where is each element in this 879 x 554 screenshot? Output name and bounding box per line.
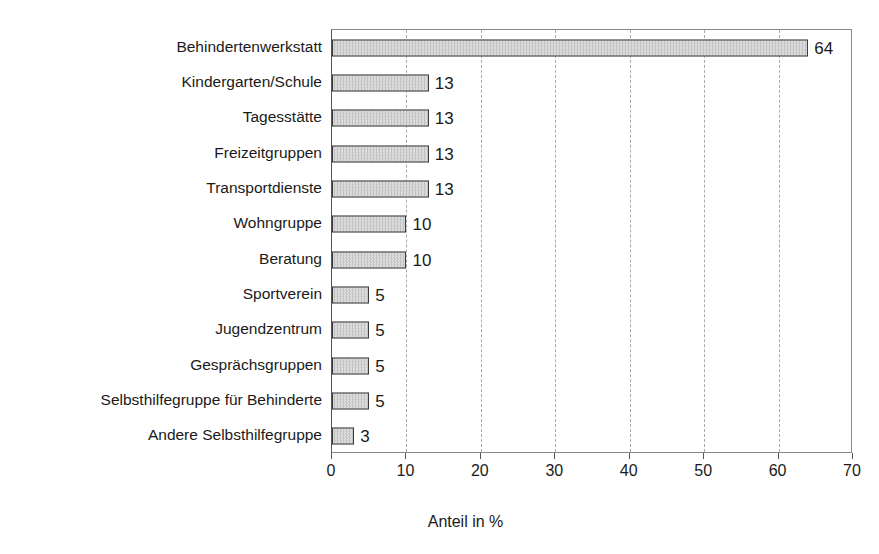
bar-value-label: 3: [360, 428, 369, 445]
bar-value-label: 13: [435, 74, 454, 91]
category-label: Selbsthilfegruppe für Behinderte: [0, 392, 322, 408]
chart-row: 13: [332, 171, 851, 206]
x-tick-label: 20: [471, 463, 489, 479]
bar[interactable]: [332, 286, 369, 303]
x-tick-label: 30: [545, 463, 563, 479]
chart-row: 3: [332, 419, 851, 454]
bar-value-label: 10: [412, 251, 431, 268]
chart-row: 5: [332, 348, 851, 383]
bar-value-label: 5: [375, 322, 384, 339]
chart-row: 13: [332, 136, 851, 171]
chart-row: 13: [332, 101, 851, 136]
x-tick-label: 70: [843, 463, 861, 479]
bar[interactable]: [332, 74, 429, 91]
plot-area: 6413131313101055553: [331, 29, 852, 453]
category-label: Andere Selbsthilfegruppe: [0, 428, 322, 444]
chart-row: 5: [332, 277, 851, 312]
category-label: Jugendzentrum: [0, 322, 322, 338]
bar-value-label: 13: [435, 145, 454, 162]
x-tick: [405, 453, 406, 459]
bar-value-label: 13: [435, 110, 454, 127]
bar[interactable]: [332, 357, 369, 374]
bar-value-label: 10: [412, 216, 431, 233]
category-label: Freizeitgruppen: [0, 145, 322, 161]
chart-row: 64: [332, 30, 851, 65]
category-label: Wohngruppe: [0, 216, 322, 232]
bar[interactable]: [332, 392, 369, 409]
x-tick: [852, 453, 853, 459]
x-tick-label: 0: [327, 463, 336, 479]
bar[interactable]: [332, 39, 808, 56]
bar-value-label: 5: [375, 286, 384, 303]
x-tick: [778, 453, 779, 459]
bar[interactable]: [332, 110, 429, 127]
x-tick: [480, 453, 481, 459]
chart-row: 5: [332, 313, 851, 348]
bar[interactable]: [332, 251, 406, 268]
bar-value-label: 64: [814, 39, 833, 56]
x-tick: [554, 453, 555, 459]
x-tick-label: 40: [620, 463, 638, 479]
chart-row: 13: [332, 65, 851, 100]
bar[interactable]: [332, 216, 406, 233]
x-tick-label: 60: [769, 463, 787, 479]
x-tick-label: 50: [694, 463, 712, 479]
chart-row: 5: [332, 383, 851, 418]
category-label: Sportverein: [0, 286, 322, 302]
x-axis-title: Anteil in %: [0, 513, 879, 531]
category-label: Kindergarten/Schule: [0, 74, 322, 90]
x-tick: [703, 453, 704, 459]
category-label: Gesprächsgruppen: [0, 357, 322, 373]
category-label: Tagesstätte: [0, 110, 322, 126]
bar-value-label: 13: [435, 180, 454, 197]
bar[interactable]: [332, 428, 354, 445]
bar-value-label: 5: [375, 392, 384, 409]
bar[interactable]: [332, 145, 429, 162]
category-label: Beratung: [0, 251, 322, 267]
bar-value-label: 5: [375, 357, 384, 374]
category-label: Behindertenwerkstatt: [0, 39, 322, 55]
chart-row: 10: [332, 242, 851, 277]
chart-row: 10: [332, 207, 851, 242]
x-tick: [629, 453, 630, 459]
x-axis-title-text: Anteil in %: [428, 513, 504, 531]
x-tick-label: 10: [397, 463, 415, 479]
bar[interactable]: [332, 180, 429, 197]
category-label: Transportdienste: [0, 180, 322, 196]
bar[interactable]: [332, 322, 369, 339]
bar-chart: 6413131313101055553 Behindertenwerkstatt…: [0, 0, 879, 554]
x-tick: [331, 453, 332, 459]
